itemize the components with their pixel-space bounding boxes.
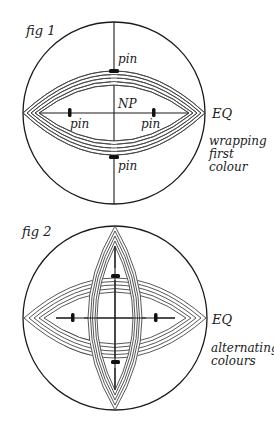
figure-2: fig 2 [20, 224, 274, 410]
fig2-pin-left-icon [71, 313, 75, 322]
fig1-title: fig 1 [25, 23, 55, 38]
fig1-caption-line-2: first [208, 147, 234, 161]
fig1-pin-top-label: pin [118, 52, 137, 66]
fig1-pin-right-icon [152, 108, 156, 117]
fig2-pin-bottom-icon [111, 360, 120, 364]
fig2-title: fig 2 [21, 224, 51, 239]
fig2-pin-right-icon [154, 313, 158, 322]
figure-1: fig 1 pin pin pin [23, 22, 267, 204]
diagram-canvas: fig 1 pin pin pin [0, 0, 274, 434]
fig2-equator-label: EQ [211, 312, 232, 327]
fig2-pin-top-icon [111, 274, 120, 278]
fig1-caption-line-1: wrapping [209, 134, 267, 148]
fig2-caption-line-1: alternating [211, 341, 274, 355]
fig1-pin-left-label: pin [70, 117, 89, 131]
fig1-pin-right-label: pin [141, 117, 160, 131]
fig1-pin-left-icon [68, 108, 72, 117]
fig1-pin-top-icon [109, 69, 119, 73]
fig1-pin-bottom-label: pin [118, 159, 137, 173]
fig1-equator-label: EQ [211, 106, 232, 121]
fig2-caption-line-2: colours [211, 354, 256, 368]
fig1-north-pole-label: NP [117, 97, 138, 111]
fig1-caption-line-3: colour [209, 160, 249, 174]
